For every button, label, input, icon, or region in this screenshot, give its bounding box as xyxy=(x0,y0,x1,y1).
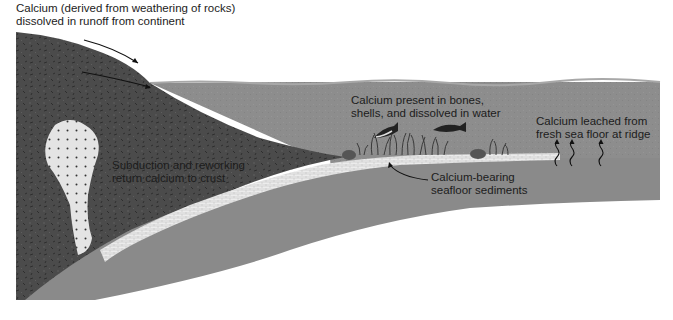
sediments-label: Calcium-bearing seafloor sediments xyxy=(431,171,528,197)
biota-label: Calcium present in bones, shells, and di… xyxy=(351,94,501,120)
subduction-label: Subduction and reworking return calcium … xyxy=(112,159,245,185)
rock-icon xyxy=(470,149,486,159)
calcium-cycle-diagram xyxy=(0,0,673,320)
ridge-leach-label: Calcium leached from fresh sea floor at … xyxy=(536,115,650,141)
runoff-label: Calcium (derived from weathering of rock… xyxy=(16,2,235,28)
rock-icon xyxy=(342,150,356,160)
